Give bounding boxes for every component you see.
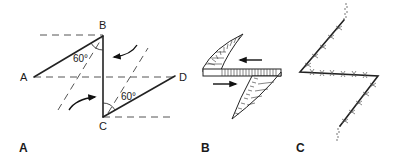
segment-ab [34,36,103,77]
angle-label-b: 60° [73,53,88,64]
shear-band [203,69,281,76]
shear-arrow-bottom [69,97,95,110]
upper-drag-wedge [203,34,243,72]
point-label-c: C [99,120,107,132]
point-label-a: A [20,71,28,83]
panel-label-c: C [296,141,305,155]
point-label-d: D [179,71,187,83]
segment-cd [103,76,175,117]
diagram-figure: B A D C 60° 60° A [0,0,395,161]
panel-b: B [201,34,281,155]
shear-arrow-top [114,45,137,57]
panel-label-a: A [19,141,28,155]
stipple-tail-top [343,3,347,19]
panel-a: B A D C 60° 60° A [19,19,187,155]
panel-label-b: B [201,141,210,155]
angle-arc-c [103,103,115,110]
angle-label-c: 60° [121,91,136,102]
stipple-tail-bottom [336,125,340,140]
point-label-b: B [99,19,106,31]
panel-c: C [296,3,378,155]
lower-drag-wedge [232,72,281,119]
